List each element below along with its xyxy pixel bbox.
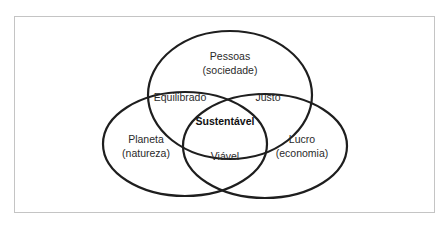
set-planeta-title: Planeta (128, 133, 164, 145)
intersection-pessoas-planeta-label: Equilibrado (154, 91, 207, 103)
set-lucro-subtitle: (economia) (276, 147, 329, 159)
venn-diagram: Pessoas (sociedade) Planeta (natureza) L… (0, 0, 447, 225)
intersection-pessoas-lucro-label: Justo (255, 91, 280, 103)
set-pessoas-subtitle: (sociedade) (203, 64, 258, 76)
center-intersection-label: Sustentável (196, 115, 255, 127)
intersection-planeta-lucro-label: Viável (211, 150, 239, 162)
set-lucro-title: Lucro (289, 133, 315, 145)
set-pessoas-title: Pessoas (210, 50, 250, 62)
set-planeta-subtitle: (natureza) (122, 147, 170, 159)
